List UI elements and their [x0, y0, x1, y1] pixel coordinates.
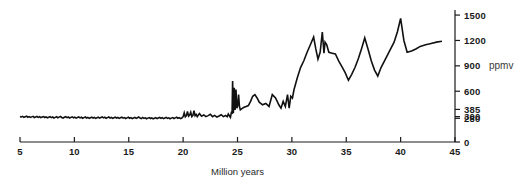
x-axis-group	[20, 137, 455, 142]
y-tick-label: 0	[464, 137, 469, 148]
chart-figure: 028030038560090012001500 510152025303540…	[0, 0, 525, 184]
y-axis-unit-label: ppmv	[489, 60, 513, 71]
x-tick-label: 10	[69, 146, 80, 157]
co2-data-line	[20, 18, 442, 118]
y-axis-ticks	[455, 15, 460, 142]
x-tick-label: 35	[341, 146, 352, 157]
x-tick-label: 45	[450, 146, 461, 157]
x-tick-label: 20	[178, 146, 189, 157]
y-tick-label: 1500	[464, 10, 486, 21]
x-tick-label: 30	[286, 146, 297, 157]
x-tick-label: 40	[395, 146, 406, 157]
x-axis-title: Million years	[211, 166, 264, 177]
y-tick-label: 900	[464, 60, 480, 71]
x-tick-label: 25	[232, 146, 243, 157]
x-tick-label: 15	[123, 146, 134, 157]
x-axis-ticks	[20, 137, 455, 142]
y-axis-group	[455, 10, 460, 142]
y-tick-label: 385	[464, 104, 480, 115]
y-tick-label: 1200	[464, 35, 486, 46]
x-tick-label: 5	[17, 146, 22, 157]
y-tick-label: 600	[464, 86, 480, 97]
